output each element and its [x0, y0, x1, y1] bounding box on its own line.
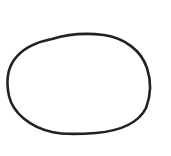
oval-drawing	[0, 0, 171, 156]
canvas	[0, 0, 171, 156]
oval-outline	[7, 34, 149, 134]
